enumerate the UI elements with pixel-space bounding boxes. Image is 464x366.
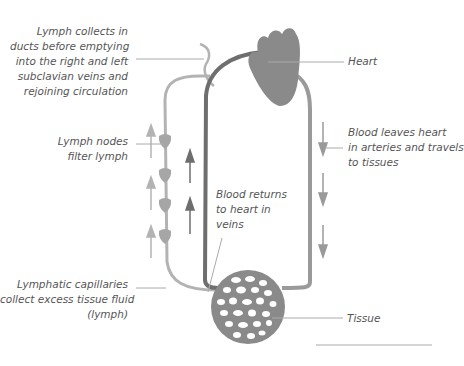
label-line: into the right and left bbox=[10, 54, 128, 69]
artery-flow-arrows bbox=[319, 122, 327, 257]
label-line: to tissues bbox=[348, 155, 464, 170]
label-line: (lymph) bbox=[0, 307, 128, 322]
label-line: in arteries and travels bbox=[348, 140, 464, 155]
label-line: Blood returns bbox=[216, 187, 287, 202]
lymphatic-capillaries-label: Lymphatic capillaries collect excess tis… bbox=[0, 277, 128, 322]
tissue-icon bbox=[211, 270, 285, 344]
label-line: Blood leaves heart bbox=[348, 125, 464, 140]
heart-label: Heart bbox=[348, 54, 377, 69]
label-line: rejoining circulation bbox=[10, 84, 128, 99]
label-line: ducts before emptying bbox=[10, 39, 128, 54]
vein-flow-arrows bbox=[186, 150, 194, 234]
label-line: Lymph collects in bbox=[10, 24, 128, 39]
blood-leaves-label: Blood leaves heart in arteries and trave… bbox=[348, 125, 464, 170]
heart-icon bbox=[248, 28, 300, 106]
vein bbox=[205, 52, 262, 288]
lymph-flow-arrows bbox=[147, 125, 155, 258]
label-line: to heart in bbox=[216, 202, 287, 217]
tissue-label: Tissue bbox=[347, 311, 380, 326]
lymph-ducts-label: Lymph collects in ducts before emptying … bbox=[10, 24, 128, 99]
blood-returns-label: Blood returns to heart in veins bbox=[216, 187, 287, 232]
label-line: filter lymph bbox=[10, 149, 128, 164]
label-line: veins bbox=[216, 217, 287, 232]
lymph-nodes-label: Lymph nodes filter lymph bbox=[10, 134, 128, 164]
label-line: collect excess tissue fluid bbox=[0, 292, 128, 307]
label-line: Lymphatic capillaries bbox=[0, 277, 128, 292]
label-line: subclavian veins and bbox=[10, 69, 128, 84]
label-line: Lymph nodes bbox=[10, 134, 128, 149]
